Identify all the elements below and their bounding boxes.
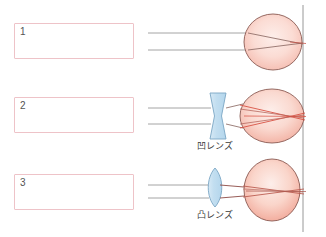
concave-lens-caption: 凹レンズ (197, 141, 233, 152)
row-3-axis-ray (246, 191, 306, 192)
worksheet-canvas: 1 2 3 凹レンズ 凸レンズ (0, 0, 326, 237)
convex-lens-caption: 凸レンズ (197, 210, 233, 221)
row-2-diverged-ray-top (226, 104, 243, 108)
row-3-uncorrected-ray-top (243, 189, 303, 192)
answer-box-3[interactable]: 3 (14, 174, 134, 210)
row-2-diverged-ray-bottom (226, 124, 243, 128)
row-3-convex-lens-body (208, 168, 222, 207)
row-3-converged-ray-top (220, 185, 244, 187)
row-3-refracted-ray-top (243, 186, 304, 194)
row-3-eyeball (244, 159, 300, 221)
row-1-diagram (148, 14, 306, 70)
answer-box-2-number: 2 (20, 100, 26, 112)
row-2-refracted-ray-top (240, 105, 305, 120)
row-2-uncorrected-ray-top (240, 109, 304, 118)
row-3-converged-ray-bottom (220, 196, 244, 198)
row-2-refracted-ray-bottom (240, 113, 305, 128)
row-2-eyeball (240, 89, 304, 143)
row-1-refracted-ray-top (248, 33, 303, 44)
row-1-refracted-ray-bottom (248, 43, 303, 50)
row-2-axis-ray (244, 116, 306, 117)
row-1-eyeball (244, 14, 302, 70)
answer-box-1-number: 1 (20, 26, 26, 38)
answer-box-1[interactable]: 1 (14, 23, 134, 59)
row-2-concave-lens-body (210, 93, 226, 139)
row-2-diagram (148, 89, 306, 143)
row-1-focus-extension (290, 42, 306, 44)
answer-box-2[interactable]: 2 (14, 97, 134, 133)
answer-box-3-number: 3 (20, 177, 26, 189)
row-2-uncorrected-ray-bottom (240, 115, 304, 124)
row-3-refracted-ray-bottom (243, 189, 304, 197)
